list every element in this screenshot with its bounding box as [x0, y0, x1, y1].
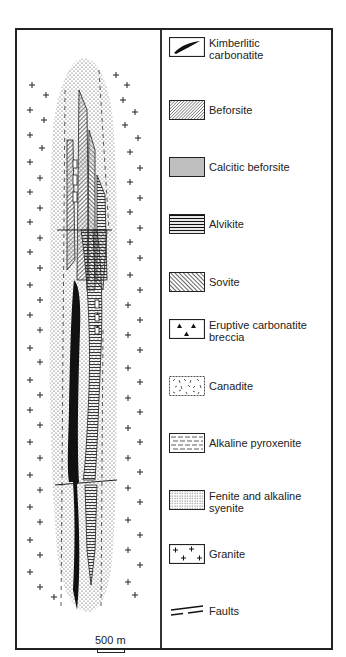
- legend-label: Kimberlitic: [209, 37, 329, 49]
- scale-label: 500 m: [95, 634, 126, 646]
- legend-item-eruptive-carbonatite-breccia: Eruptive carbonatite breccia: [169, 319, 329, 343]
- granite-swatch-icon: [169, 544, 205, 564]
- legend-item-granite: Granite: [169, 544, 329, 564]
- faults-swatch-icon: [169, 601, 205, 621]
- legend-label: Faults: [209, 605, 329, 617]
- legend-item-faults: Faults: [169, 601, 329, 621]
- legend-label: Calcitic beforsite: [209, 161, 329, 173]
- legend-item-beforsite: Beforsite: [169, 100, 329, 120]
- legend-item-alvikite: Alvikite: [169, 214, 329, 234]
- legend-label-line2: carbonatite: [209, 49, 329, 61]
- alvikite-swatch-icon: [169, 214, 205, 234]
- legend-item-sovite: Sovite: [169, 272, 329, 292]
- breccia-swatch-icon: [169, 319, 205, 339]
- sovite-swatch-icon: [169, 272, 205, 292]
- legend-label: Canadite: [209, 380, 329, 392]
- scale-bar: [97, 649, 125, 653]
- legend-item-alkaline-pyroxenite: Alkaline pyroxenite: [169, 433, 329, 453]
- legend-label: Beforsite: [209, 104, 329, 116]
- beforsite-swatch-icon: [169, 100, 205, 120]
- legend-label: Granite: [209, 548, 329, 560]
- legend: Kimberlitic carbonatite Beforsite Calcit…: [162, 30, 330, 648]
- legend-item-kimberlitic-carbonatite: Kimberlitic carbonatite: [169, 37, 329, 61]
- legend-label-line2: breccia: [209, 331, 329, 343]
- legend-label: Fenite and alkaline: [209, 490, 329, 502]
- legend-label: Alvikite: [209, 218, 329, 230]
- legend-label-line2: syenite: [209, 502, 329, 514]
- geological-map: 500 m: [17, 30, 160, 648]
- fenite-swatch-icon: [169, 490, 205, 510]
- alkaline-pyroxenite-swatch-icon: [169, 433, 205, 453]
- legend-item-calcitic-beforsite: Calcitic beforsite: [169, 157, 329, 177]
- legend-label: Sovite: [209, 276, 329, 288]
- canadite-swatch-icon: [169, 376, 205, 396]
- calcitic-beforsite-swatch-icon: [169, 157, 205, 177]
- legend-item-fenite-alkaline-syenite: Fenite and alkaline syenite: [169, 490, 329, 514]
- kimberlitic-carbonatite-swatch-icon: [169, 37, 205, 57]
- legend-label: Eruptive carbonatite: [209, 319, 329, 331]
- legend-item-canadite: Canadite: [169, 376, 329, 396]
- legend-label: Alkaline pyroxenite: [209, 437, 329, 449]
